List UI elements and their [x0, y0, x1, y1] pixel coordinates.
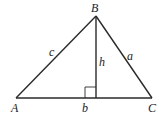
vertex-label-b: B — [91, 1, 99, 15]
side-label-c: c — [49, 45, 55, 59]
vertex-label-a: A — [10, 101, 19, 115]
side-c — [16, 16, 96, 98]
side-label-a: a — [127, 49, 133, 63]
vertex-label-c: C — [148, 101, 157, 115]
triangle-diagram: B A C c a b h — [0, 0, 165, 115]
side-label-b: b — [82, 101, 88, 115]
right-angle-marker — [85, 87, 96, 98]
altitude-label-h: h — [99, 55, 105, 69]
